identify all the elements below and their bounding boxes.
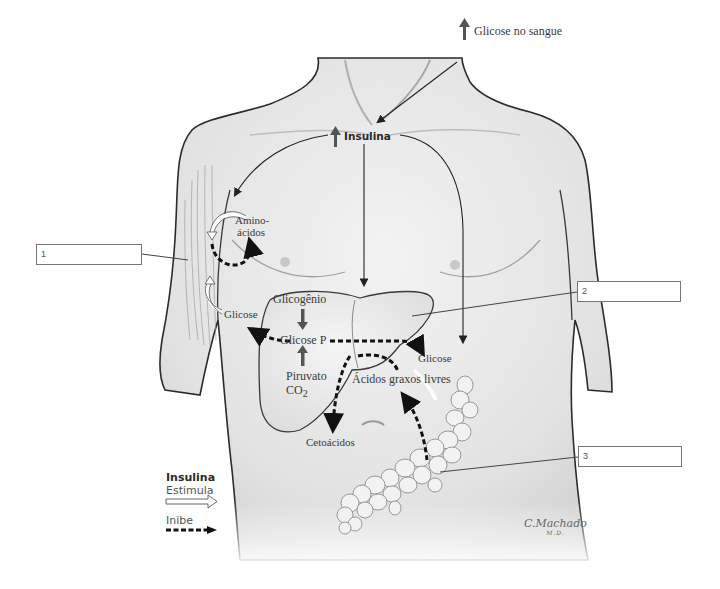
answer-box-3-number: 3 — [583, 451, 588, 461]
artist-signature: C.Machado M.D. — [524, 517, 587, 536]
pyruvate-label: Piruvato — [286, 370, 327, 383]
answer-box-3[interactable]: 3 — [578, 446, 682, 467]
legend-stimulates: Estimula — [166, 485, 214, 497]
ketoacids-label: Cetoácidos — [306, 436, 355, 448]
amino-acids-label-1: Amino- — [235, 214, 269, 226]
co2-subscript: 2 — [303, 388, 308, 399]
glycogen-label: Glicogênio — [273, 293, 326, 306]
insulin-label: Insulina — [344, 131, 391, 143]
legend-title: Insulina — [166, 472, 215, 484]
adipose-glucose-label: Glicose — [418, 352, 452, 364]
answer-box-1-number: 1 — [41, 249, 46, 259]
answer-box-2-number: 2 — [582, 286, 587, 296]
glucose-p-label: Glicose P — [280, 334, 326, 347]
co2-text: CO — [286, 383, 303, 397]
amino-acids-label-2: ácidos — [237, 226, 265, 238]
blood-glucose-label: Glicose no sangue — [474, 25, 562, 38]
signature-suffix: M.D. — [524, 529, 587, 536]
free-fatty-acids-label: Ácidos graxos livres — [352, 373, 451, 386]
answer-box-1[interactable]: 1 — [36, 244, 142, 265]
muscle-glucose-label: Glicose — [224, 308, 258, 320]
co2-label: CO2 — [286, 384, 308, 399]
answer-box-2[interactable]: 2 — [577, 281, 681, 302]
legend-inhibits: Inibe — [166, 515, 193, 527]
insulin-diagram: Glicose no sangue Insulina Amino- ácidos… — [0, 0, 720, 589]
